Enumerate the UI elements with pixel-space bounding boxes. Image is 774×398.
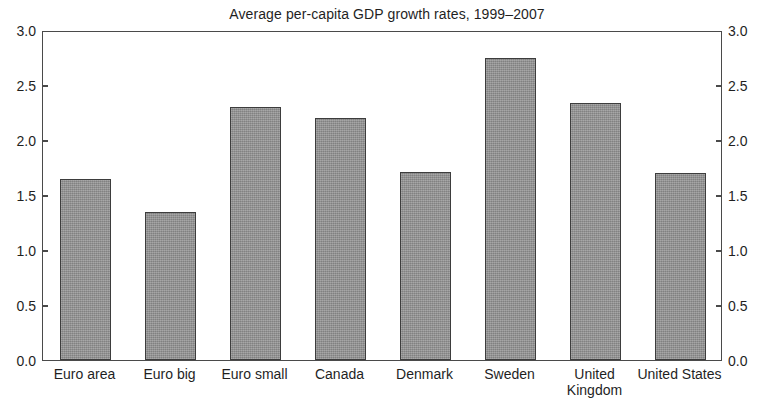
bar-6 [570,103,621,360]
bar-2 [230,107,281,360]
bar-5 [485,58,536,361]
y-axis-label-left-0: 0.0 [17,354,36,368]
y-tick-left-2 [42,250,48,252]
chart-title: Average per-capita GDP growth rates, 199… [0,6,774,22]
y-axis-label-left-1: 0.5 [17,299,36,313]
y-tick-right-1 [716,305,722,307]
plot-area [42,31,722,361]
y-axis-label-right-3: 1.5 [728,189,747,203]
y-axis-label-right-0: 0.0 [728,354,747,368]
y-tick-right-3 [716,195,722,197]
y-tick-left-4 [42,140,48,142]
x-axis-label-3: Canada [297,366,382,382]
y-axis-label-left-5: 2.5 [17,79,36,93]
bar-0 [60,179,111,361]
x-axis-label-2: Euro small [212,366,297,382]
y-axis-label-left-3: 1.5 [17,189,36,203]
y-tick-left-5 [42,85,48,87]
bar-4 [400,172,451,360]
x-axis-label-7: United States [637,366,722,382]
y-axis-label-left-6: 3.0 [17,24,36,38]
x-axis-label-0: Euro area [42,366,127,382]
y-axis-label-left-2: 1.0 [17,244,36,258]
y-axis-label-right-2: 1.0 [728,244,747,258]
y-axis-label-right-4: 2.0 [728,134,747,148]
x-axis-label-5: Sweden [467,366,552,382]
y-axis-label-right-5: 2.5 [728,79,747,93]
y-tick-left-1 [42,305,48,307]
y-tick-right-4 [716,140,722,142]
y-tick-left-3 [42,195,48,197]
bar-1 [145,212,196,361]
x-axis-label-1: Euro big [127,366,212,382]
bar-7 [655,173,706,360]
y-tick-right-5 [716,85,722,87]
x-axis-label-6: United Kingdom [552,366,637,398]
bar-3 [315,118,366,360]
y-axis-label-right-1: 0.5 [728,299,747,313]
y-axis-label-right-6: 3.0 [728,24,747,38]
y-tick-right-2 [716,250,722,252]
y-axis-label-left-4: 2.0 [17,134,36,148]
x-axis-label-4: Denmark [382,366,467,382]
